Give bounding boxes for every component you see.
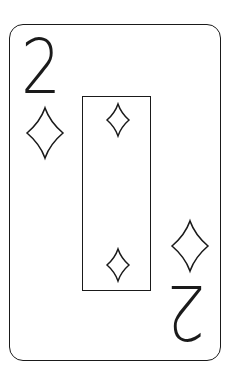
diamond-icon (106, 103, 130, 137)
rank-bottom-right: 2 (165, 275, 205, 349)
rank-top-left: 2 (21, 30, 61, 104)
playing-card[interactable]: 2 2 (9, 24, 221, 361)
diamond-icon (26, 107, 64, 159)
diamond-icon (171, 220, 209, 272)
diamond-icon (106, 248, 130, 282)
